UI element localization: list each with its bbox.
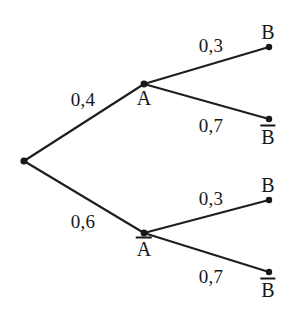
node-dot-root	[20, 157, 27, 164]
probability-label-A-to-B: 0,3	[199, 36, 223, 55]
node-label-B-top: B	[261, 22, 274, 42]
probability-tree-diagram: 0,4 0,6 0,3 0,7 0,3 0,7 A A B B B B	[0, 0, 302, 318]
node-label-A-bar-text: A	[137, 238, 151, 259]
node-label-B-bar-top: B	[261, 126, 274, 147]
node-label-B-bar-top-text: B	[261, 126, 274, 147]
node-dot-B-bottom	[266, 197, 272, 203]
probability-label-root-to-A: 0,4	[71, 90, 95, 109]
node-dot-B-top	[266, 44, 272, 50]
node-label-B-bar-bottom: B	[261, 279, 274, 300]
node-label-B-bottom: B	[261, 175, 274, 195]
node-dot-B-bar-top	[266, 116, 272, 122]
tree-graph-canvas	[0, 0, 302, 318]
node-label-B-bar-bottom-text: B	[261, 279, 274, 300]
probability-label-A-bar-to-B: 0,3	[199, 189, 223, 208]
node-label-A-bar: A	[137, 238, 151, 259]
probability-label-A-bar-to-B-bar: 0,7	[199, 267, 223, 286]
probability-label-root-to-A-bar: 0,6	[71, 212, 95, 231]
node-label-A: A	[137, 88, 151, 108]
node-dot-B-bar-bottom	[266, 269, 272, 275]
node-dot-A-bar	[141, 230, 148, 237]
probability-label-A-to-B-bar: 0,7	[199, 116, 223, 135]
